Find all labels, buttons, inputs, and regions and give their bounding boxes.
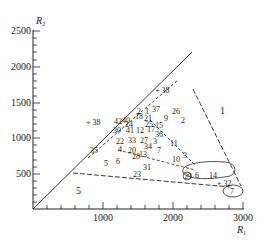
y-axis-title: R2 <box>35 15 45 27</box>
point-11: 11 <box>170 139 178 148</box>
point-5: 5 <box>104 159 108 168</box>
point-26: 26 <box>172 107 180 116</box>
point-12: 12 <box>136 126 144 135</box>
point-31: 31 <box>143 163 151 172</box>
point-7b: 7 <box>230 187 234 196</box>
x-tick-3000: 3000 <box>233 212 253 223</box>
region-label-5: 5 <box>76 185 81 196</box>
point-3a: 3 <box>153 137 157 146</box>
point-41: 41 <box>126 126 134 135</box>
point-6a: 6 <box>116 157 120 166</box>
scatter-chart: 2500 2000 1500 1000 500 1000 2000 3000 R… <box>0 0 266 240</box>
point-3b: 3 <box>183 151 187 160</box>
point-23: 23 <box>133 170 141 179</box>
point-14: 14 <box>209 171 217 180</box>
point-42: 42 <box>114 117 122 126</box>
point-7a: 7 <box>157 146 161 155</box>
x-ticks <box>47 202 243 209</box>
x-axis-title: R1 <box>236 224 246 236</box>
y-tick-1500: 1500 <box>11 97 31 108</box>
y-tick-1000: 1000 <box>11 132 31 143</box>
point-6b: 6 <box>195 171 199 180</box>
point-38b: + 38 <box>86 118 101 127</box>
point-28: 28 <box>132 152 140 161</box>
point-15: 15 <box>155 121 163 130</box>
point-2b: 2 <box>181 116 185 125</box>
point-17: 17 <box>147 125 155 134</box>
region-label-1: 1 <box>220 105 225 116</box>
point-35: 35 <box>90 146 98 155</box>
y-ticks <box>33 31 40 202</box>
point-10: 10 <box>172 155 180 164</box>
point-33: 33 <box>128 136 136 145</box>
point-29: 29 <box>184 172 192 181</box>
y-tick-500: 500 <box>16 168 31 179</box>
point-9: 9 <box>164 114 168 123</box>
dashed-line-right <box>193 89 241 186</box>
y-tick-2500: 2500 <box>11 25 31 36</box>
point-13: 13 <box>139 150 147 159</box>
y-tick-2000: 2000 <box>11 61 31 72</box>
point-38a: + 38 <box>155 86 170 95</box>
x-tick-1000: 1000 <box>93 212 113 223</box>
x-tick-2000: 2000 <box>163 212 183 223</box>
dashed-line-lower <box>73 173 230 187</box>
point-4: 4 <box>118 145 122 154</box>
point-37: 37 <box>152 105 160 114</box>
point-18: 18 <box>135 112 143 121</box>
point-30: 30 <box>113 126 121 135</box>
